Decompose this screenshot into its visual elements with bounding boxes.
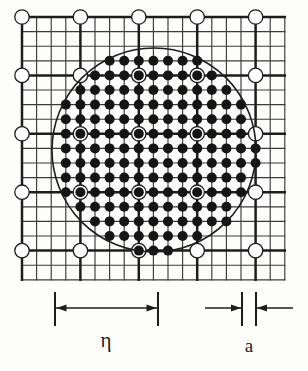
- filled-lattice-node: [119, 158, 129, 168]
- filled-lattice-node: [207, 129, 217, 139]
- filled-lattice-node: [105, 173, 115, 183]
- filled-lattice-node: [119, 173, 129, 183]
- filled-lattice-node: [207, 202, 217, 212]
- filled-lattice-node: [178, 70, 188, 80]
- filled-lattice-node: [119, 187, 129, 197]
- filled-lattice-node: [163, 56, 173, 66]
- filled-lattice-node: [75, 158, 85, 168]
- filled-lattice-node: [75, 143, 85, 153]
- filled-lattice-node: [90, 143, 100, 153]
- filled-lattice-node: [148, 216, 158, 226]
- filled-lattice-node: [90, 100, 100, 110]
- filled-lattice-node: [221, 158, 231, 168]
- filled-lattice-node: [178, 56, 188, 66]
- open-lattice-node: [15, 185, 29, 199]
- filled-lattice-node: [148, 231, 158, 241]
- filled-lattice-node: [163, 173, 173, 183]
- filled-lattice-node: [192, 173, 202, 183]
- filled-lattice-node: [105, 129, 115, 139]
- filled-lattice-node: [207, 187, 217, 197]
- filled-lattice-node: [163, 70, 173, 80]
- filled-lattice-node: [192, 216, 202, 226]
- filled-lattice-node: [119, 231, 129, 241]
- filled-lattice-node: [134, 56, 144, 66]
- filled-lattice-node: [90, 216, 100, 226]
- filled-lattice-node: [134, 187, 144, 197]
- filled-lattice-node: [178, 202, 188, 212]
- filled-lattice-node: [221, 202, 231, 212]
- filled-lattice-node: [90, 158, 100, 168]
- filled-lattice-node: [221, 129, 231, 139]
- filled-lattice-node: [178, 231, 188, 241]
- open-lattice-node: [248, 185, 262, 199]
- open-lattice-node: [15, 68, 29, 82]
- open-lattice-node: [132, 10, 146, 24]
- filled-lattice-node: [148, 246, 158, 256]
- filled-lattice-node: [134, 173, 144, 183]
- filled-lattice-node: [178, 187, 188, 197]
- filled-lattice-node: [61, 129, 71, 139]
- filled-lattice-node: [90, 173, 100, 183]
- filled-lattice-node: [163, 114, 173, 124]
- filled-lattice-node: [178, 129, 188, 139]
- filled-lattice-node: [163, 231, 173, 241]
- filled-lattice-node: [163, 85, 173, 95]
- filled-lattice-node: [236, 158, 246, 168]
- open-lattice-node: [248, 243, 262, 257]
- filled-lattice-node: [192, 143, 202, 153]
- filled-lattice-node: [236, 129, 246, 139]
- dimension-label-eta: η: [101, 328, 112, 352]
- filled-lattice-node: [134, 216, 144, 226]
- filled-lattice-node: [148, 173, 158, 183]
- filled-lattice-node: [105, 187, 115, 197]
- open-lattice-node: [15, 243, 29, 257]
- filled-lattice-node: [119, 70, 129, 80]
- filled-lattice-node: [192, 158, 202, 168]
- filled-lattice-node: [119, 114, 129, 124]
- filled-lattice-node: [75, 129, 85, 139]
- filled-lattice-node: [134, 143, 144, 153]
- filled-lattice-node: [192, 129, 202, 139]
- filled-lattice-node: [148, 85, 158, 95]
- filled-lattice-node: [163, 100, 173, 110]
- filled-lattice-node: [178, 100, 188, 110]
- filled-lattice-node: [75, 187, 85, 197]
- filled-lattice-node: [163, 216, 173, 226]
- filled-lattice-node: [192, 85, 202, 95]
- filled-lattice-node: [221, 143, 231, 153]
- filled-lattice-node: [207, 158, 217, 168]
- filled-lattice-node: [119, 216, 129, 226]
- filled-lattice-node: [221, 85, 231, 95]
- filled-lattice-node: [178, 114, 188, 124]
- filled-lattice-node: [221, 100, 231, 110]
- filled-lattice-node: [148, 187, 158, 197]
- filled-lattice-node: [105, 114, 115, 124]
- filled-lattice-node: [163, 129, 173, 139]
- diagram-canvas: η a: [0, 0, 308, 371]
- filled-lattice-node: [163, 158, 173, 168]
- filled-lattice-node: [134, 158, 144, 168]
- filled-lattice-node: [90, 85, 100, 95]
- filled-lattice-node: [192, 100, 202, 110]
- filled-lattice-node: [134, 202, 144, 212]
- filled-lattice-node: [163, 143, 173, 153]
- filled-lattice-node: [90, 70, 100, 80]
- open-lattice-node: [248, 68, 262, 82]
- filled-lattice-node: [148, 129, 158, 139]
- filled-lattice-node: [90, 114, 100, 124]
- mesh-lattice-circle-diagram: η a: [0, 0, 308, 371]
- filled-lattice-node: [148, 114, 158, 124]
- open-lattice-node: [15, 127, 29, 141]
- dimension-label-a: a: [245, 335, 254, 356]
- filled-lattice-node: [90, 129, 100, 139]
- filled-lattice-node: [134, 70, 144, 80]
- filled-lattice-node: [207, 114, 217, 124]
- filled-lattice-node: [148, 202, 158, 212]
- filled-lattice-node: [148, 56, 158, 66]
- filled-lattice-node: [119, 129, 129, 139]
- filled-lattice-node: [134, 114, 144, 124]
- filled-lattice-node: [221, 187, 231, 197]
- filled-lattice-node: [192, 202, 202, 212]
- figure-background: [0, 0, 308, 371]
- filled-lattice-node: [207, 143, 217, 153]
